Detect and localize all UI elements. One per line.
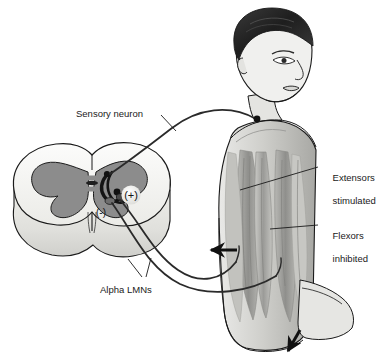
excitatory-symbol: (+) <box>124 189 138 201</box>
label-extensors-line1: Extensors <box>333 172 375 183</box>
shoulder-sensory-receptor-dot <box>254 116 261 123</box>
inhibitory-symbol: (-) <box>96 207 106 218</box>
leader-alpha-lmn-a <box>128 259 142 277</box>
inhibitory-interneuron-soma <box>105 198 115 205</box>
label-extensors-stimulated: Extensors stimulated <box>322 160 376 218</box>
label-sensory-neuron: Sensory neuron <box>76 108 143 120</box>
pupil <box>282 58 287 63</box>
label-flexors-inhibited: Flexors inhibited <box>322 218 368 276</box>
extensor-muscle-group <box>225 150 272 322</box>
diagram-canvas: (+) (-) <box>0 0 383 364</box>
mouth <box>283 86 299 91</box>
label-flexors-line2: inhibited <box>333 253 368 264</box>
label-extensors-line2: stimulated <box>333 195 376 206</box>
label-flexors-line1: Flexors <box>333 230 364 241</box>
label-alpha-lmns: Alpha LMNs <box>100 284 152 296</box>
central-canal <box>86 181 98 185</box>
spinal-cord-cross-section: (+) (-) <box>13 143 170 257</box>
leader-alpha-lmn-b <box>146 258 151 277</box>
leader-sensory-neuron <box>161 115 176 131</box>
